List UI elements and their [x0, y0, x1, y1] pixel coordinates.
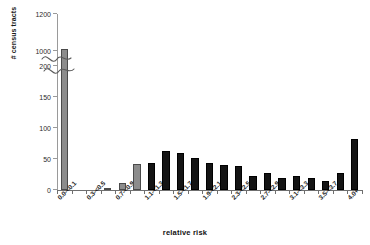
- bar: [322, 181, 329, 190]
- bar: [133, 164, 140, 190]
- bar: [177, 153, 184, 190]
- x-tick: [101, 190, 102, 194]
- x-tick: [188, 190, 189, 194]
- bar: [308, 178, 315, 190]
- bar: [206, 163, 213, 190]
- bar: [351, 139, 358, 190]
- y-tick-label: 100: [39, 124, 51, 131]
- x-tick: [304, 190, 305, 194]
- y-axis-title: # census tracts: [10, 0, 17, 78]
- y-axis-line: [57, 14, 58, 190]
- y-tick: [53, 13, 57, 14]
- bar: [293, 176, 300, 190]
- bar: [119, 183, 126, 190]
- bar: [148, 163, 155, 190]
- y-tick-label: 1200: [35, 11, 51, 18]
- bar: [61, 49, 68, 190]
- x-axis-title: relative risk: [0, 228, 370, 237]
- y-tick-label: 200: [39, 62, 51, 69]
- y-tick: [53, 158, 57, 159]
- bar: [220, 165, 227, 190]
- bar: [104, 188, 111, 190]
- x-tick: [362, 190, 363, 194]
- bar: [235, 166, 242, 190]
- x-tick: [72, 190, 73, 194]
- x-tick: [159, 190, 160, 194]
- x-tick: [130, 190, 131, 194]
- x-tick: [246, 190, 247, 194]
- y-tick-label: 50: [43, 155, 51, 162]
- x-tick: [333, 190, 334, 194]
- bar: [278, 178, 285, 190]
- y-tick-label: 0: [47, 187, 51, 194]
- y-tick: [53, 127, 57, 128]
- y-tick-label: 150: [39, 93, 51, 100]
- y-tick: [53, 65, 57, 66]
- bar-chart: # census tracts 05010015020010001200 0.0…: [0, 0, 370, 245]
- bar: [162, 151, 169, 190]
- bar: [264, 173, 271, 190]
- y-tick: [53, 96, 57, 97]
- x-tick: [217, 190, 218, 194]
- bar: [337, 173, 344, 190]
- bar: [249, 176, 256, 190]
- bar: [191, 158, 198, 190]
- x-tick: [275, 190, 276, 194]
- plot-area: 05010015020010001200 0.0-<0.10.3-<0.50.7…: [57, 14, 362, 190]
- y-tick-label: 1000: [35, 47, 51, 54]
- y-tick: [53, 50, 57, 51]
